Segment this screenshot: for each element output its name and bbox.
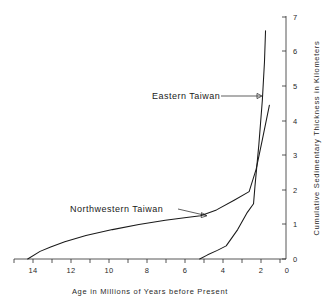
y-tick-label: 3 — [293, 151, 297, 160]
chart-plot-area: 14 12 10 8 6 4 2 0 0 1 2 3 4 5 — [0, 0, 330, 305]
series-line-eastern-taiwan — [200, 31, 266, 259]
x-tick-label: 14 — [29, 266, 38, 275]
northwestern-taiwan-leader-line — [178, 209, 206, 216]
chart-figure: 14 12 10 8 6 4 2 0 0 1 2 3 4 5 — [0, 0, 330, 305]
x-axis-title: Age in Millions of Years before Present — [72, 287, 228, 296]
x-axis-tick-labels: 14 12 10 8 6 4 2 0 — [29, 266, 290, 275]
x-tick-label: 8 — [145, 266, 149, 275]
x-tick-label: 6 — [183, 266, 187, 275]
eastern-taiwan-annotation: Eastern Taiwan — [152, 91, 262, 101]
y-tick-label: 0 — [293, 255, 297, 264]
x-tick-label: 2 — [259, 266, 263, 275]
y-tick-label: 1 — [293, 220, 297, 229]
x-tick-label: 4 — [221, 266, 225, 275]
northwestern-taiwan-annotation: Northwestern Taiwan — [70, 204, 207, 218]
y-tick-label: 2 — [293, 186, 297, 195]
y-axis-title: Cumulative Sedimentary Thickness in Kilo… — [312, 40, 321, 235]
x-tick-label: 12 — [67, 266, 76, 275]
y-tick-label: 6 — [293, 47, 297, 56]
x-tick-label: 0 — [285, 266, 289, 275]
y-axis-ticks — [282, 17, 286, 259]
y-tick-label: 7 — [293, 13, 297, 22]
series-label-northwestern-taiwan: Northwestern Taiwan — [70, 204, 163, 214]
x-axis-ticks — [14, 259, 280, 263]
y-axis-tick-labels: 0 1 2 3 4 5 6 7 — [293, 13, 297, 264]
y-tick-label: 5 — [293, 82, 297, 91]
y-tick-label: 4 — [293, 117, 297, 126]
series-label-eastern-taiwan: Eastern Taiwan — [152, 91, 220, 101]
x-tick-label: 10 — [105, 266, 114, 275]
